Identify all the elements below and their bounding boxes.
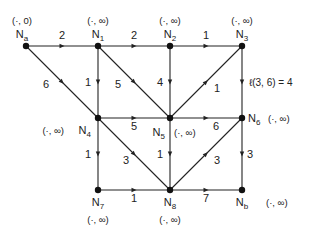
node-N5	[167, 115, 173, 121]
node-N8	[167, 187, 173, 193]
arrowhead-icon	[168, 80, 172, 85]
node-name: N6	[248, 112, 261, 127]
edge-weight: 6	[43, 78, 49, 90]
node-state-label: (·, 0)	[12, 15, 32, 26]
node-name: N2	[164, 28, 177, 43]
arrowhead-icon	[168, 152, 172, 157]
node-N7	[95, 187, 101, 193]
node-state-label: (·, ∞)	[87, 214, 109, 225]
arrowhead-icon	[96, 152, 100, 157]
node-N4	[95, 115, 101, 121]
node-name: Na	[16, 28, 29, 43]
arrowhead-icon	[96, 80, 100, 85]
node-state-label: (·, ∞)	[42, 125, 64, 136]
edge-weight: 2	[59, 29, 65, 41]
node-state-label: (·, ∞)	[87, 15, 109, 26]
edge-weight: 1	[203, 29, 209, 41]
edge-weight: 5	[115, 78, 121, 90]
edge-weight: 2	[131, 29, 137, 41]
edges-layer	[26, 44, 244, 192]
node-N6	[239, 115, 245, 121]
arrowhead-icon	[204, 44, 209, 48]
node-name: Nb	[236, 196, 249, 211]
node-Na	[23, 43, 29, 49]
node-name: N5	[153, 126, 166, 141]
edge-weight: 1	[85, 76, 91, 88]
node-name: N8	[164, 196, 177, 211]
node-Nb	[239, 187, 245, 193]
arrowhead-icon	[204, 116, 209, 120]
arrowhead-icon	[132, 44, 137, 48]
node-name: N4	[79, 124, 92, 139]
edge-weight: 3	[247, 148, 253, 160]
node-N2	[167, 43, 173, 49]
node-name: N3	[236, 28, 249, 43]
node-state-label: (·, ∞)	[268, 113, 290, 124]
edge-weight: 3	[214, 154, 220, 166]
edge-weight: 1	[131, 192, 137, 204]
edge-weight: 5	[131, 120, 137, 132]
node-N3	[239, 43, 245, 49]
arrowhead-icon	[60, 44, 65, 48]
arrowhead-icon	[240, 152, 244, 157]
arrowhead-icon	[240, 80, 244, 85]
node-state-label: (·, ∞)	[159, 214, 181, 225]
edge-weight: 1	[157, 148, 163, 160]
edge-weight: 6	[213, 120, 219, 132]
edge-weight: 1	[85, 148, 91, 160]
node-state-label: (·, ∞)	[231, 15, 253, 26]
edge-weight: 4	[157, 76, 163, 88]
graph-diagram: 22161541ℓ(3, 6) = 4561313317Na(·, 0)N1(·…	[0, 0, 315, 230]
node-name: N1	[92, 28, 105, 43]
node-N1	[95, 43, 101, 49]
node-state-label: (·, ∞)	[174, 127, 196, 138]
edge-weight: ℓ(3, 6) = 4	[249, 77, 293, 88]
node-name: N7	[92, 196, 105, 211]
node-state-label: (·, ∞)	[159, 15, 181, 26]
node-state-label: (·, ∞)	[266, 197, 288, 208]
edge-weight: 3	[123, 154, 129, 166]
edge-weight: 1	[214, 82, 220, 94]
edge-weight: 7	[203, 192, 209, 204]
